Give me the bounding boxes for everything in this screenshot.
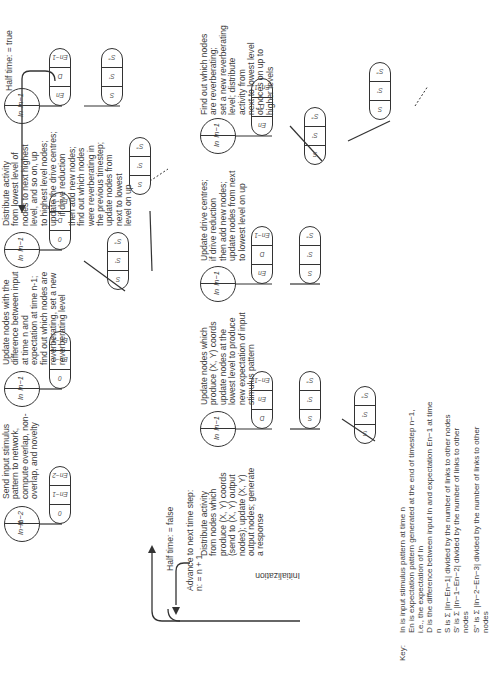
similarity-pill: S S′ S″ bbox=[304, 107, 326, 165]
key-line: S″ is Σ |In−2−En−3| divided by the numbe… bbox=[472, 427, 481, 634]
input-circle: In−1 In−2 bbox=[4, 506, 40, 542]
similarity-pill: S S′ S″ bbox=[101, 48, 123, 106]
half-time-true-label: Half time: = true bbox=[4, 30, 14, 91]
input-circle: In In−1 bbox=[4, 232, 40, 268]
key-line: S is Σ |In−En−1| divided by the number o… bbox=[443, 414, 452, 633]
initialization-label: Initialization bbox=[255, 571, 300, 581]
key-line: En is expectation pattern generated at t… bbox=[407, 410, 416, 633]
key-title: Key: bbox=[398, 645, 407, 661]
similarity-pill: S S′ S″ bbox=[299, 226, 321, 284]
key-line: S′ is Σ |In−1−En−2| divided by the numbe… bbox=[452, 428, 461, 633]
similarity-pill: S S′ S″ bbox=[369, 62, 391, 120]
half-time-false-label: Half time: = false bbox=[165, 507, 175, 571]
similarity-pill: S S′ S″ bbox=[354, 386, 376, 444]
distribute-lowest-description: Distribute activity from lowest level of… bbox=[2, 131, 134, 226]
key-line: i.e., the expectation of In bbox=[416, 546, 425, 633]
input-circle: In In−1 bbox=[200, 266, 236, 302]
similarity-pill: S S′ S″ bbox=[107, 232, 129, 290]
input-circle: In In−1 bbox=[200, 118, 236, 154]
input-circle: In In−1 bbox=[4, 371, 40, 407]
update-difference-description: Update nodes with the difference between… bbox=[2, 272, 68, 366]
expectation-pill: En D En−1 bbox=[49, 48, 71, 106]
distribute-xy-description: Distribute activity from nodes which pro… bbox=[200, 468, 266, 556]
key-line: D is the difference between input In and… bbox=[425, 402, 434, 633]
similarity-pill: S S′ S″ bbox=[299, 371, 321, 429]
update-drive-description: Update drive centres; if drive reduction… bbox=[200, 171, 247, 261]
expectation-pill: En D En−1 bbox=[251, 226, 273, 284]
update-xy-description: Update nodes which produce (X, Y) coords… bbox=[200, 312, 256, 405]
key-line: n bbox=[434, 629, 443, 633]
flow-diagram: Initialization Half time: = false Half t… bbox=[0, 0, 502, 681]
key-line: nodes bbox=[481, 611, 490, 633]
input-circle: In In−1 bbox=[200, 411, 236, 447]
key-line: nodes bbox=[461, 611, 470, 633]
expectation-pill: 0 En−1 En−2 bbox=[49, 466, 71, 524]
find-reverberating-description: Find out which nodes are reverberating; … bbox=[200, 25, 275, 115]
send-input-description: Send input stimulus pattern to network, … bbox=[2, 413, 40, 499]
key-line: In is input stimulus pattern at time n bbox=[398, 507, 407, 633]
input-circle: In In−1 bbox=[4, 88, 40, 124]
